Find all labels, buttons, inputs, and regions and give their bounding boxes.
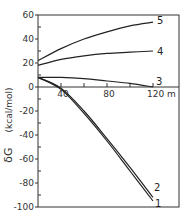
curve-1	[38, 77, 153, 201]
plot-border	[38, 15, 179, 207]
curve-label-5: 5	[157, 15, 163, 26]
curve-label-4: 4	[157, 46, 163, 57]
curve-label-3: 3	[156, 76, 162, 87]
y-axis-symbol: δG	[2, 147, 15, 162]
y-tick-label: -40	[19, 130, 34, 140]
y-tick-label: -20	[19, 106, 34, 116]
chart: 6040200-20-40-60-80-1004080120 m 12345 (…	[0, 0, 189, 221]
y-tick-label: -60	[19, 154, 34, 164]
curve-4	[38, 51, 153, 65]
curve-label-1: 1	[155, 198, 161, 209]
y-axis-units: (kcal/mol)	[4, 87, 14, 132]
curve-labels: 12345	[154, 15, 163, 209]
y-tick-label: 20	[23, 58, 35, 68]
y-tick-label: 60	[23, 10, 35, 20]
y-tick-label: -80	[19, 178, 34, 188]
plot-frame	[38, 15, 179, 207]
y-tick-label: 0	[28, 82, 34, 92]
x-tick-label: 80	[103, 89, 115, 99]
curve-label-2: 2	[154, 182, 160, 193]
y-tick-label: 40	[23, 34, 35, 44]
x-tick-label: 120 m	[147, 89, 176, 99]
curves	[38, 22, 153, 201]
y-tick-label: -100	[14, 202, 35, 212]
